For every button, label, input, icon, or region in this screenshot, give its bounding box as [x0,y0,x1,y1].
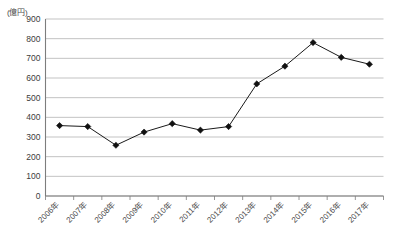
data-point-marker [56,122,62,128]
data-point-marker [366,61,372,67]
x-axis-ticks [46,196,384,200]
x-axis-tick-label: 2010年 [148,199,173,224]
y-axis-tick-label: 600 [26,73,40,83]
data-point-marker [225,123,231,129]
x-axis-tick-label: 2009年 [120,199,145,224]
gridlines-group [46,19,384,196]
y-axis-tick-label: 300 [26,132,40,142]
x-axis-tick-label: 2013年 [233,199,258,224]
x-axis-tick-labels: 2006年2007年2008年2009年2010年2011年2012年2013年… [36,199,371,224]
data-point-marker [85,123,91,129]
y-axis-tick-label: 400 [26,112,40,122]
data-point-marker [169,121,175,127]
x-axis-tick-label: 2017年 [346,199,371,224]
y-axis-tick-label: 200 [26,152,40,162]
x-axis-tick-label: 2008年 [92,199,117,224]
data-point-marker [254,81,260,87]
data-point-marker [338,54,344,60]
chart-container: (億円) 0100200300400500600700800900 2006年2… [0,0,396,238]
x-axis-tick-label: 2014年 [261,199,286,224]
line-chart-plot: 0100200300400500600700800900 2006年2007年2… [0,0,396,238]
x-axis-tick-label: 2015年 [289,199,314,224]
y-axis-tick-label: 0 [36,191,41,201]
y-axis-tick-label: 500 [26,93,40,103]
x-axis-tick-label: 2011年 [177,199,202,224]
y-axis-tick-label: 900 [26,14,40,24]
x-axis-tick-label: 2007年 [64,199,89,224]
data-point-marker [141,129,147,135]
y-axis-tick-label: 100 [26,171,40,181]
data-point-marker [113,142,119,148]
y-axis-tick-label: 800 [26,34,40,44]
data-point-marker [197,127,203,133]
data-point-markers [56,40,372,149]
y-axis-tick-labels: 0100200300400500600700800900 [26,14,40,201]
x-axis-tick-label: 2006年 [36,199,61,224]
y-axis-tick-label: 700 [26,53,40,63]
x-axis-tick-label: 2016年 [317,199,342,224]
x-axis-tick-label: 2012年 [205,199,230,224]
